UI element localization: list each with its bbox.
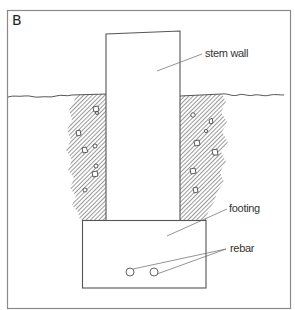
panel-label: B (12, 12, 22, 28)
label-rebar: rebar (230, 242, 254, 254)
stem-wall (106, 31, 180, 220)
label-stem-wall: stem wall (205, 47, 248, 59)
rebar-2 (150, 268, 158, 276)
rebar-1 (126, 268, 134, 276)
stem-wall-footing-diagram (0, 0, 295, 310)
footing (83, 221, 207, 289)
label-footing: footing (229, 202, 260, 214)
